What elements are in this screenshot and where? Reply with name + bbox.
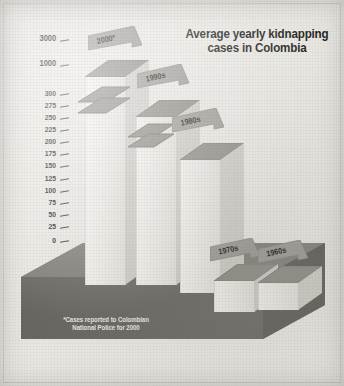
y-tick-label-300: 300 (20, 89, 56, 98)
y-tick-mark (60, 39, 69, 41)
y-tick-mark (60, 153, 69, 155)
y-tick-label-150: 150 (20, 161, 56, 170)
bar-face-1970s (214, 281, 255, 312)
y-tick-mark (60, 226, 69, 228)
bar-1960s (258, 266, 302, 310)
y-tick-label-225: 225 (20, 125, 56, 134)
y-tick-mark (60, 64, 69, 66)
y-tick-mark (60, 202, 69, 204)
y-tick-mark (60, 117, 69, 119)
y-tick-mark (60, 129, 69, 131)
bar-1970s (214, 264, 258, 312)
y-tick-label-75: 75 (20, 198, 56, 207)
y-tick-mark (60, 105, 69, 107)
chart-footnote-text-1: Cases reported to Colombian (65, 316, 148, 323)
y-tick-mark (60, 93, 69, 95)
bar-label-tag-1960s: 1960s (258, 240, 308, 266)
y-tick-label-25: 25 (20, 222, 56, 231)
y-tick-mark (60, 214, 69, 216)
y-tick-mark (60, 190, 69, 192)
chart-footnote-line-1: *Cases reported to Colombian (30, 316, 182, 324)
bar-label-tag-2000: 2000* (88, 26, 142, 52)
chart-title-line-1: Average yearly kidnapping (182, 28, 333, 42)
y-tick-label-275: 275 (20, 101, 56, 110)
kidnapping-chart-figure: 3000 1000 300 275 250 225 200 175 150 12… (0, 0, 344, 386)
y-tick-mark (60, 165, 69, 167)
chart-footnote: *Cases reported to Colombian National Po… (30, 316, 182, 332)
bar-label-tag-1990s: 1990s (137, 64, 189, 90)
bar-face-1960s (258, 283, 299, 310)
y-tick-label-175: 175 (20, 149, 56, 158)
chart-title: Average yearly kidnapping cases in Colom… (182, 28, 333, 55)
y-tick-label-100: 100 (20, 186, 56, 195)
y-tick-mark (60, 178, 69, 180)
y-tick-label-0: 0 (20, 236, 56, 245)
y-tick-mark (60, 141, 69, 143)
y-tick-label-1000: 1000 (20, 58, 56, 68)
y-tick-label-250: 250 (20, 113, 56, 122)
y-tick-mark (60, 240, 69, 242)
y-tick-label-200: 200 (20, 137, 56, 146)
y-tick-label-50: 50 (20, 210, 56, 219)
chart-title-line-2: cases in Colombia (182, 42, 333, 56)
bar-label-tag-1970s: 1970s (210, 238, 260, 264)
y-tick-label-125: 125 (20, 174, 56, 183)
chart-footnote-line-2: National Police for 2000 (30, 324, 182, 332)
bar-label-tag-1980s: 1980s (172, 108, 224, 134)
y-tick-label-3000: 3000 (20, 33, 56, 43)
